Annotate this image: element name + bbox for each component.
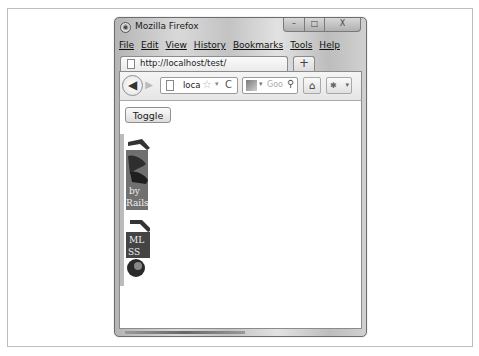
svg-text:SS: SS bbox=[128, 247, 140, 257]
reload-icon[interactable]: C bbox=[225, 79, 232, 90]
menu-tools[interactable]: Tools bbox=[290, 40, 312, 54]
back-arrow-icon: ◀ bbox=[128, 78, 137, 92]
forward-arrow-icon: ▶ bbox=[145, 79, 153, 90]
search-engine-dropdown-icon[interactable]: ▾ bbox=[259, 80, 263, 88]
window-title: Mozilla Firefox bbox=[135, 21, 199, 31]
search-engine-icon[interactable] bbox=[246, 80, 257, 91]
navigation-toolbar: ◀ ▶ loca ☆ ▾ C ▾ Goo ⚲ ⌂ ✱ ▾ bbox=[119, 71, 362, 101]
book-cover-css-icon: ML SS bbox=[120, 218, 150, 286]
search-input[interactable]: Goo bbox=[267, 80, 283, 89]
forward-button[interactable]: ▶ bbox=[143, 79, 155, 91]
menu-history[interactable]: History bbox=[194, 40, 226, 54]
home-button[interactable]: ⌂ bbox=[303, 77, 321, 94]
blank-page-icon bbox=[127, 59, 135, 69]
addon-dropdown-icon[interactable]: ▾ bbox=[345, 78, 349, 93]
close-button[interactable]: X bbox=[325, 18, 361, 32]
menu-bookmarks[interactable]: Bookmarks bbox=[233, 40, 283, 54]
menu-bar: File Edit View History Bookmarks Tools H… bbox=[119, 40, 340, 54]
book-cover-image: ML SS bbox=[120, 218, 150, 286]
svg-text:Rails: Rails bbox=[126, 198, 149, 208]
book-cover-rails-icon: by Rails bbox=[120, 134, 150, 220]
site-identity-icon bbox=[166, 80, 174, 91]
home-icon: ⌂ bbox=[309, 80, 315, 91]
tab-localhost[interactable]: http://localhost/test/ bbox=[120, 56, 288, 71]
menu-view[interactable]: View bbox=[166, 40, 187, 54]
title-bar[interactable]: ◉ Mozilla Firefox – □ X bbox=[115, 18, 366, 38]
minimize-button[interactable]: – bbox=[283, 18, 305, 32]
addon-button[interactable]: ✱ ▾ bbox=[326, 77, 352, 94]
url-bar[interactable]: loca ☆ ▾ C bbox=[160, 77, 238, 94]
tab-strip: http://localhost/test/ + bbox=[119, 56, 362, 71]
magnifier-icon[interactable]: ⚲ bbox=[287, 78, 294, 89]
search-bar[interactable]: ▾ Goo ⚲ bbox=[242, 77, 298, 94]
addon-icon: ✱ bbox=[330, 78, 337, 93]
book-cover-image: by Rails bbox=[120, 134, 150, 220]
url-input[interactable]: loca bbox=[183, 80, 200, 90]
menu-edit[interactable]: Edit bbox=[141, 40, 158, 54]
toggle-button[interactable]: Toggle bbox=[125, 107, 171, 123]
firefox-logo-icon: ◉ bbox=[120, 22, 131, 33]
svg-text:ML: ML bbox=[129, 235, 144, 245]
menu-file[interactable]: File bbox=[119, 40, 134, 54]
firefox-window: ◉ Mozilla Firefox – □ X File Edit View H… bbox=[114, 17, 367, 337]
url-history-dropdown-icon[interactable]: ▾ bbox=[215, 80, 219, 88]
window-controls: – □ X bbox=[283, 18, 361, 32]
page-content: Toggle by Rails ML SS bbox=[119, 101, 362, 329]
new-tab-button[interactable]: + bbox=[293, 56, 315, 71]
tab-label: http://localhost/test/ bbox=[140, 58, 226, 68]
back-button[interactable]: ◀ bbox=[122, 75, 143, 96]
window-bottom-edge bbox=[125, 331, 245, 334]
bookmark-star-icon[interactable]: ☆ bbox=[202, 78, 212, 91]
maximize-button[interactable]: □ bbox=[305, 18, 325, 32]
svg-text:by: by bbox=[129, 186, 141, 196]
menu-help[interactable]: Help bbox=[319, 40, 340, 54]
